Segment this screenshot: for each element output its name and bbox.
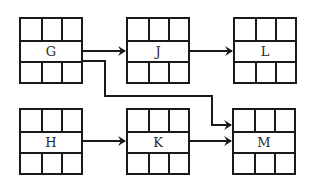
node-cell [148, 63, 168, 82]
node-cell [148, 154, 168, 173]
node-bottom-row [128, 152, 188, 173]
node-cell [21, 19, 41, 40]
node-cell [168, 154, 188, 173]
node-cell [254, 154, 274, 173]
node-bottom-row [21, 152, 81, 173]
node-cell [234, 110, 254, 131]
node-cell [21, 63, 41, 82]
node-cell [234, 154, 254, 173]
node-label-row: J [128, 40, 188, 61]
node-label: H [45, 136, 56, 149]
node-k: K [126, 108, 190, 175]
node-cell [128, 110, 148, 131]
node-cell [128, 154, 148, 173]
node-cell [21, 110, 41, 131]
node-m: M [232, 108, 296, 175]
node-cell [168, 19, 188, 40]
node-l: L [233, 17, 297, 84]
node-cell [128, 63, 148, 82]
node-bottom-row [235, 61, 295, 82]
node-cell [254, 110, 274, 131]
node-h: H [19, 108, 83, 175]
node-label-row: H [21, 131, 81, 152]
node-cell [148, 19, 168, 40]
node-label-row: M [234, 131, 294, 152]
node-cell [61, 110, 81, 131]
node-label: J [155, 45, 160, 58]
node-j: J [126, 17, 190, 84]
node-cell [168, 110, 188, 131]
node-cell [41, 63, 61, 82]
diagram-canvas: G J L [0, 0, 314, 188]
node-cell [21, 154, 41, 173]
node-cell [255, 19, 275, 40]
node-bottom-row [234, 152, 294, 173]
node-cell [235, 63, 255, 82]
node-cell [255, 63, 275, 82]
node-bottom-row [128, 61, 188, 82]
node-cell [61, 154, 81, 173]
node-top-row [21, 19, 81, 40]
node-label-row: K [128, 131, 188, 152]
node-g: G [19, 17, 83, 84]
node-top-row [235, 19, 295, 40]
node-cell [61, 63, 81, 82]
node-cell [41, 154, 61, 173]
node-top-row [128, 19, 188, 40]
node-label: K [153, 136, 163, 149]
node-cell [235, 19, 255, 40]
node-bottom-row [21, 61, 81, 82]
node-cell [274, 110, 294, 131]
node-label: M [257, 136, 270, 149]
node-label: G [46, 45, 56, 58]
node-cell [148, 110, 168, 131]
node-cell [61, 19, 81, 40]
node-top-row [128, 110, 188, 131]
node-cell [168, 63, 188, 82]
node-cell [274, 154, 294, 173]
node-label-row: L [235, 40, 295, 61]
node-cell [41, 19, 61, 40]
node-cell [275, 19, 295, 40]
node-cell [41, 110, 61, 131]
node-cell [275, 63, 295, 82]
node-label: L [261, 45, 270, 58]
node-cell [128, 19, 148, 40]
node-top-row [234, 110, 294, 131]
node-top-row [21, 110, 81, 131]
node-label-row: G [21, 40, 81, 61]
